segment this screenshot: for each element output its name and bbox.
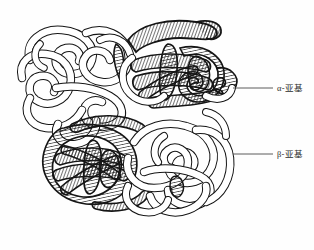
subunit-beta-upper-right — [123, 21, 237, 108]
label-alpha-subunit: α-亚基 — [277, 84, 303, 93]
subunit-beta-lower-left — [43, 116, 149, 211]
molecular-structure-drawing — [0, 0, 314, 250]
leader-lines — [233, 88, 273, 154]
label-beta-subunit: β-亚基 — [277, 150, 303, 159]
hemoglobin-structure-figure: α-亚基 β-亚基 — [0, 0, 314, 250]
